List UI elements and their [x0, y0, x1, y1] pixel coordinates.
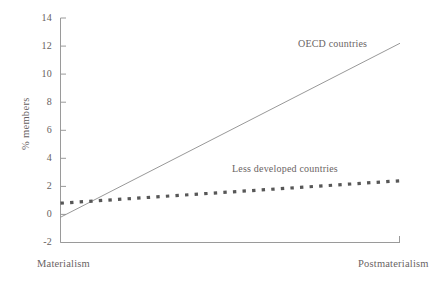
y-tick-label-10: 10: [22, 68, 52, 79]
series-label-less-developed: Less developed countries: [232, 163, 338, 174]
x-axis-label-postmaterialism: Postmaterialism: [358, 258, 429, 269]
series-line-oecd: [61, 43, 401, 217]
x-axis-label-materialism: Materialism: [37, 258, 90, 269]
y-axis-ticks: [61, 18, 67, 243]
y-tick-label-14: 14: [22, 12, 52, 23]
y-tick-label-2: 2: [22, 180, 52, 191]
series-label-oecd: OECD countries: [298, 38, 367, 49]
y-tick-label-6: 6: [22, 124, 52, 135]
y-tick-label-4: 4: [22, 152, 52, 163]
y-tick-label-0: 0: [22, 208, 52, 219]
y-tick-label-12: 12: [22, 40, 52, 51]
chart-figure: % members 14 12 10 8 6 4 2 0 -2 Material…: [0, 0, 443, 282]
chart-canvas: [0, 0, 443, 282]
series-line-less-developed: [61, 181, 401, 203]
y-tick-label-8: 8: [22, 96, 52, 107]
y-tick-label-minus-2: -2: [22, 236, 52, 247]
